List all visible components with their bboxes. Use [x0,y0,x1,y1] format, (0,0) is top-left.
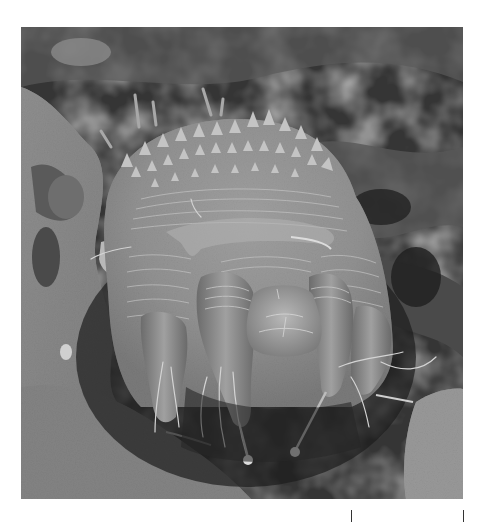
scale-bar-label [0,0,1,1]
scale-bar-right-tick [463,510,464,522]
scale-bar-left-tick [351,510,352,522]
sem-micrograph: Grayscale SEM image of a mite emerging f… [21,27,463,499]
gnathosoma [247,285,322,356]
mite-illustration [21,27,463,499]
